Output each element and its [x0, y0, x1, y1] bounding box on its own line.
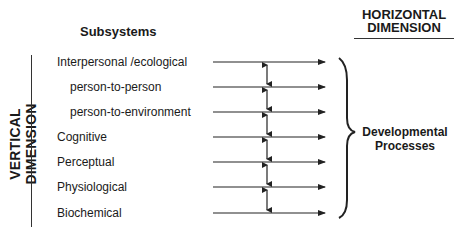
curly-brace: [339, 58, 355, 218]
processes-line1: Developmental: [355, 125, 455, 139]
horizontal-arrows: [213, 62, 325, 213]
developmental-processes-label: Developmental Processes: [355, 125, 455, 153]
arrows-diagram: [0, 0, 469, 232]
processes-line2: Processes: [355, 139, 455, 153]
